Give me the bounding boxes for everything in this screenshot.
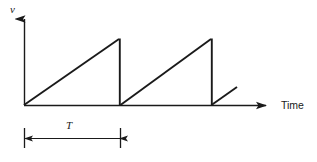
waveform-ramp-3-partial (212, 87, 238, 105)
waveform-ramp-2 (121, 39, 212, 105)
y-axis-label: v (10, 4, 15, 15)
waveform-figure: v Time T (0, 0, 317, 162)
waveform-canvas (0, 0, 317, 162)
x-axis-label: Time (281, 100, 304, 111)
waveform-ramp-1 (24, 39, 119, 105)
period-dimension (25, 128, 121, 148)
sawtooth-waveform (24, 39, 237, 106)
period-label: T (66, 120, 72, 131)
